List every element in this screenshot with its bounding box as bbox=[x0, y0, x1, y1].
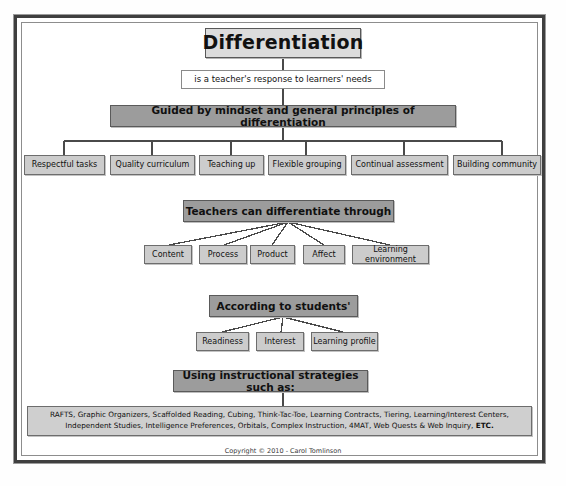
copyright-notice: Copyright © 2010 - Carol Tomlinson bbox=[0, 447, 566, 455]
title-label: Differentiation bbox=[202, 32, 363, 54]
guided-item-label: Flexible grouping bbox=[273, 160, 342, 169]
strategies-header-label: Using instructional strategies such as: bbox=[174, 369, 367, 393]
guided-item-respectful-tasks: Respectful tasks bbox=[24, 155, 105, 175]
guided-header-label: Guided by mindset and general principles… bbox=[111, 104, 455, 128]
guided-item-building-community: Building community bbox=[453, 155, 541, 175]
guided-item-teaching-up: Teaching up bbox=[199, 155, 264, 175]
through-item-content: Content bbox=[144, 245, 192, 264]
guided-item-label: Teaching up bbox=[208, 160, 256, 169]
through-header-label: Teachers can differentiate through bbox=[186, 205, 392, 217]
copyright-label: Copyright © 2010 - Carol Tomlinson bbox=[225, 447, 342, 455]
definition-label: is a teacher's response to learners' nee… bbox=[194, 75, 371, 85]
according-item-label: Readiness bbox=[202, 337, 243, 346]
through-item-learning-environment: Learning environment bbox=[352, 245, 429, 264]
through-item-label: Learning environment bbox=[353, 245, 428, 263]
guided-item-continual-assessment: Continual assessment bbox=[351, 155, 448, 175]
diagram-canvas: Differentiation is a teacher's response … bbox=[0, 0, 566, 486]
strategies-line-2: Independent Studies, Intelligence Prefer… bbox=[34, 421, 525, 432]
through-header-box: Teachers can differentiate through bbox=[183, 200, 394, 222]
through-item-product: Product bbox=[250, 245, 295, 264]
through-item-label: Process bbox=[208, 250, 238, 259]
through-item-label: Product bbox=[257, 250, 287, 259]
strategies-list-box: RAFTS, Graphic Organizers, Scaffolded Re… bbox=[27, 406, 532, 436]
according-item-interest: Interest bbox=[256, 332, 304, 351]
according-item-readiness: Readiness bbox=[196, 332, 249, 351]
guided-header-box: Guided by mindset and general principles… bbox=[110, 105, 456, 127]
through-item-label: Content bbox=[152, 250, 184, 259]
through-item-process: Process bbox=[199, 245, 247, 264]
through-item-affect: Affect bbox=[303, 245, 345, 264]
guided-item-label: Continual assessment bbox=[355, 160, 443, 169]
guided-item-flexible-grouping: Flexible grouping bbox=[268, 155, 346, 175]
according-item-label: Interest bbox=[265, 337, 296, 346]
strategies-header-box: Using instructional strategies such as: bbox=[173, 370, 368, 392]
according-item-learning-profile: Learning profile bbox=[311, 332, 378, 351]
through-item-label: Affect bbox=[312, 250, 335, 259]
definition-box: is a teacher's response to learners' nee… bbox=[181, 70, 385, 89]
strategies-etc: ETC. bbox=[476, 421, 494, 430]
guided-item-label: Building community bbox=[457, 160, 537, 169]
guided-item-quality-curriculum: Quality curriculum bbox=[110, 155, 195, 175]
guided-item-label: Quality curriculum bbox=[116, 160, 190, 169]
strategies-line-2-main: Independent Studies, Intelligence Prefer… bbox=[65, 421, 475, 430]
according-header-box: According to students' bbox=[209, 295, 358, 317]
strategies-line-1: RAFTS, Graphic Organizers, Scaffolded Re… bbox=[34, 410, 525, 421]
according-item-label: Learning profile bbox=[313, 337, 376, 346]
title-box: Differentiation bbox=[205, 28, 361, 58]
according-header-label: According to students' bbox=[217, 300, 351, 312]
guided-item-label: Respectful tasks bbox=[32, 160, 97, 169]
